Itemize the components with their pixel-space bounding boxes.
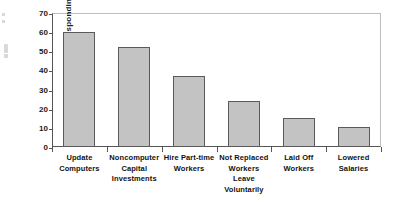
x-axis-category-label-line: Workers	[163, 164, 216, 175]
x-axis-category-label: Laid OffWorkers	[271, 153, 326, 174]
x-axis-category-label-line: Not Replaced	[217, 153, 270, 164]
scan-artifact-speck	[2, 13, 5, 16]
x-axis-category-label: UpdateComputers	[52, 153, 107, 174]
x-axis-ticks	[52, 147, 381, 152]
y-axis-tick-label: 50	[39, 47, 48, 56]
x-axis-category-label-line: Voluntarily	[217, 185, 270, 196]
y-axis-tick-label: 20	[39, 105, 48, 114]
x-axis-tick-mark	[381, 147, 382, 152]
x-axis-labels: UpdateComputersNoncomputerCapitalInvestm…	[52, 153, 381, 195]
x-axis-tick-mark	[52, 147, 53, 152]
bar	[283, 118, 315, 147]
bar-slot	[52, 13, 107, 147]
x-axis-category-label-line: Update	[53, 153, 106, 164]
bar-chart-figure: Percent Responding 010203040506070 Updat…	[0, 0, 397, 201]
x-axis-category-label-line: Salaries	[327, 164, 380, 175]
bar-slot	[162, 13, 217, 147]
bar	[118, 47, 150, 147]
bar-series	[52, 13, 381, 147]
x-axis-tick-mark	[271, 147, 272, 152]
x-axis-tick-mark	[326, 147, 327, 152]
y-axis-tick-label: 60	[39, 28, 48, 37]
scan-artifact-speck	[4, 54, 8, 58]
x-axis-category-label: NoncomputerCapitalInvestments	[107, 153, 162, 185]
bar-slot	[271, 13, 326, 147]
x-axis-category-label: Not ReplacedWorkersLeaveVoluntarily	[216, 153, 271, 195]
y-axis-tick-label: 10	[39, 124, 48, 133]
x-axis-category-label-line: Capital	[108, 164, 161, 175]
x-axis-category-label-line: Workers	[217, 164, 270, 175]
y-axis-tick-label: 40	[39, 66, 48, 75]
bar	[338, 127, 370, 147]
x-axis-category-label-line: Lowered	[327, 153, 380, 164]
bar-slot	[326, 13, 381, 147]
bar	[173, 76, 205, 147]
bar-slot	[107, 13, 162, 147]
y-axis-tick-label: 70	[39, 9, 48, 18]
x-axis-tick-mark	[107, 147, 108, 152]
bar	[63, 32, 95, 147]
x-axis-category-label-line: Investments	[108, 174, 161, 185]
x-axis-category-label-line: Hire Part-time	[163, 153, 216, 164]
bar-slot	[216, 13, 271, 147]
scan-artifact-speck	[2, 20, 5, 23]
x-axis-category-label: LoweredSalaries	[326, 153, 381, 174]
x-axis-tick-mark	[162, 147, 163, 152]
y-axis-tick-label: 30	[39, 86, 48, 95]
scan-artifact-speck	[4, 44, 8, 53]
x-axis-category-label-line: Workers	[272, 164, 325, 175]
x-axis-category-label-line: Laid Off	[272, 153, 325, 164]
x-axis-category-label: Hire Part-timeWorkers	[162, 153, 217, 174]
y-axis-tick-label: 0	[44, 143, 48, 152]
x-axis-category-label-line: Leave	[217, 174, 270, 185]
x-axis-tick-mark	[217, 147, 218, 152]
x-axis-category-label-line: Noncomputer	[108, 153, 161, 164]
bar	[228, 101, 260, 147]
x-axis-category-label-line: Computers	[53, 164, 106, 175]
